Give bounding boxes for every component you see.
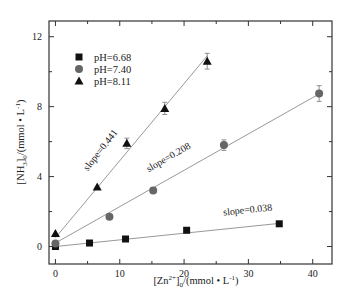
plot-border: [49, 21, 332, 264]
x-axis-label: [Zn2+]0/(mmol • L-1): [153, 274, 239, 289]
square-marker: [122, 236, 129, 243]
circle-marker: [51, 240, 59, 248]
square-marker: [86, 240, 93, 247]
x-tick-label: 40: [308, 268, 318, 279]
triangle-marker: [203, 57, 212, 65]
legend: pH=6.68pH=7.40pH=8.11: [75, 52, 132, 87]
circle-marker: [149, 187, 157, 195]
triangle-marker: [160, 104, 169, 112]
slope-label: slope=0.208: [144, 140, 192, 174]
circle-marker: [220, 141, 228, 149]
plot-frame: [49, 21, 332, 264]
square-marker: [276, 220, 283, 227]
y-axis-label: [NH3]0/(mmol • L-1): [14, 99, 29, 184]
y-tick-label: 4: [37, 171, 42, 182]
square-marker: [183, 227, 190, 234]
square-marker: [76, 54, 83, 61]
legend-item-label: pH=7.40: [94, 64, 131, 75]
slope-label: slope=0.038: [223, 201, 273, 217]
y-tick-label: 0: [37, 241, 42, 252]
triangle-marker: [122, 139, 131, 147]
circle-marker: [75, 65, 83, 73]
chart: 01020304004812 slope=0.441slope=0.208slo…: [0, 0, 349, 306]
circle-marker: [315, 90, 323, 98]
y-tick-label: 8: [37, 101, 42, 112]
error-bars: [124, 53, 321, 150]
circle-marker: [105, 213, 113, 221]
x-tick-label: 0: [53, 268, 58, 279]
y-tick-label: 12: [32, 31, 42, 42]
triangle-marker: [75, 77, 84, 85]
x-tick-label: 30: [243, 268, 253, 279]
slope-label: slope=0.441: [81, 127, 120, 173]
x-tick-label: 10: [115, 268, 125, 279]
legend-item-label: pH=6.68: [94, 52, 131, 63]
triangle-marker: [51, 229, 60, 237]
legend-item-label: pH=8.11: [94, 76, 131, 87]
